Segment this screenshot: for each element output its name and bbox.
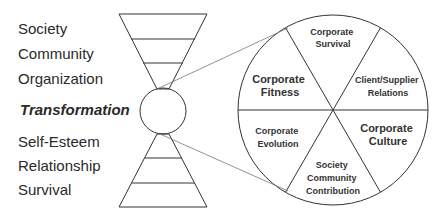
transformation-circle (140, 88, 186, 134)
top-funnel (119, 14, 207, 89)
segment-corporate-evolution: Corporate Evolution (255, 126, 301, 149)
bottom-pyramid (119, 134, 207, 207)
wheel-labels: Corporate Survival Client/Supplier Relat… (252, 27, 421, 196)
segment-client-supplier-relations: Client/Supplier Relations (355, 75, 421, 98)
segment-corporate-culture: Corporate Culture (360, 122, 416, 147)
segment-corporate-survival: Corporate Survival (310, 27, 356, 49)
segment-corporate-fitness: Corporate Fitness (252, 73, 308, 98)
segment-society-community-contribution: Society Community Contribution (306, 160, 360, 196)
hourglass-wheel-diagram: Corporate Survival Client/Supplier Relat… (0, 0, 444, 219)
